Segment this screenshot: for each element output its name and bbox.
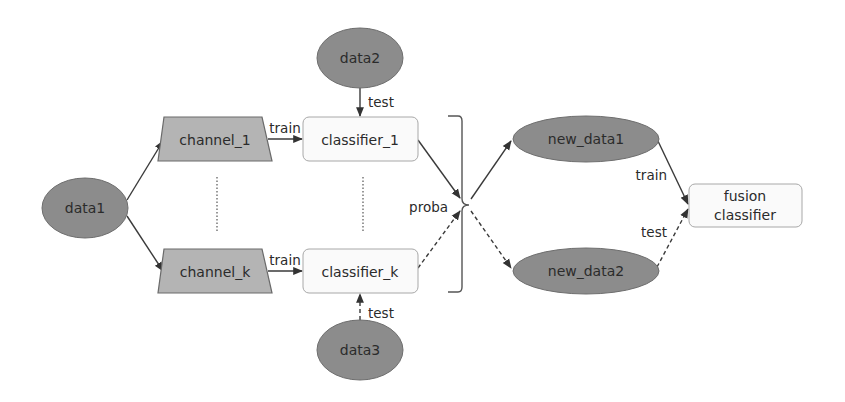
node-fusion-label-line1: fusion xyxy=(724,188,766,204)
edge-label-test-fusion: test xyxy=(641,224,667,240)
edge-data1-channel1 xyxy=(127,141,163,200)
node-fusion-label-line2: classifier xyxy=(714,207,776,223)
ellipsis-dividers xyxy=(217,177,363,232)
edge-label-test-data3: test xyxy=(368,305,394,321)
edge-label-train-1: train xyxy=(269,120,300,136)
edge-proba-newdata1 xyxy=(471,141,511,199)
node-channel-1: channel_1 xyxy=(158,117,272,161)
node-new-data1-label: new_data1 xyxy=(548,131,624,147)
node-data3-label: data3 xyxy=(340,342,380,358)
node-data1: data1 xyxy=(42,178,128,238)
node-classifier-1-label: classifier_1 xyxy=(321,132,399,148)
node-new-data2: new_data2 xyxy=(513,248,659,294)
pipeline-diagram: data1 data2 data3 channel_1 channel_k cl… xyxy=(0,0,845,402)
node-channel-1-label: channel_1 xyxy=(179,132,250,148)
brace-label-proba: proba xyxy=(409,199,448,215)
node-classifier-k: classifier_k xyxy=(303,249,418,293)
node-classifier-k-label: classifier_k xyxy=(322,264,400,280)
node-channel-k: channel_k xyxy=(158,249,272,293)
node-data2: data2 xyxy=(317,28,403,88)
proba-brace xyxy=(448,116,469,292)
node-channel-k-label: channel_k xyxy=(180,264,251,280)
node-fusion-classifier: fusion classifier xyxy=(689,184,802,227)
edge-label-train-k: train xyxy=(269,252,300,268)
node-new-data2-label: new_data2 xyxy=(548,263,624,279)
edge-data1-channelk xyxy=(127,216,163,271)
edge-label-train-fusion: train xyxy=(636,167,667,183)
node-data2-label: data2 xyxy=(340,50,380,66)
node-new-data1: new_data1 xyxy=(513,116,659,162)
node-classifier-1: classifier_1 xyxy=(303,117,418,161)
edge-label-test-data2: test xyxy=(368,94,394,110)
edge-classifier1-proba xyxy=(418,140,460,198)
node-data3: data3 xyxy=(317,320,403,380)
edge-classifierk-proba xyxy=(418,211,460,268)
edge-proba-newdata2 xyxy=(471,211,511,268)
node-data1-label: data1 xyxy=(65,200,105,216)
